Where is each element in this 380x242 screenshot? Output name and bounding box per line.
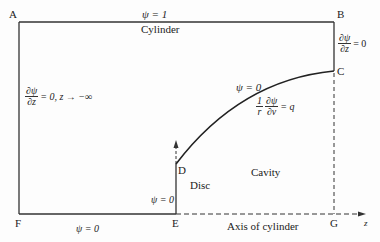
curve-condition: ψ = 0 — [236, 82, 261, 93]
point-g-label: G — [330, 218, 338, 229]
cylinder-label: Cylinder — [141, 24, 180, 35]
r-axis-arrow-icon — [174, 140, 179, 148]
cavity-label: Cavity — [251, 167, 280, 178]
z-axis-arrow-icon — [358, 212, 366, 217]
point-d-label: D — [178, 165, 186, 176]
flow-domain-diagram: A B C D E F G ψ = 1 Cylinder ∂ψ∂z = 0, z… — [0, 0, 380, 242]
curve-flux-condition: 1r ∂ψ∂ν = q — [256, 96, 294, 117]
diagram-lines — [0, 0, 380, 242]
axis-of-cylinder-label: Axis of cylinder — [227, 221, 298, 232]
right-boundary-condition: ∂ψ∂z = 0 — [338, 33, 366, 54]
z-axis-label: z — [364, 218, 368, 229]
disc-condition: ψ = 0 — [151, 194, 174, 205]
top-boundary-condition: ψ = 1 — [142, 9, 167, 20]
point-e-label: E — [172, 218, 179, 229]
point-b-label: B — [337, 9, 344, 20]
disc-label: Disc — [190, 180, 210, 191]
point-a-label: A — [9, 9, 17, 20]
left-boundary-condition: ∂ψ∂z = 0, z → −∞ — [25, 86, 92, 107]
point-c-label: C — [337, 66, 344, 77]
bottom-boundary-condition: ψ = 0 — [76, 223, 99, 234]
point-f-label: F — [15, 218, 21, 229]
